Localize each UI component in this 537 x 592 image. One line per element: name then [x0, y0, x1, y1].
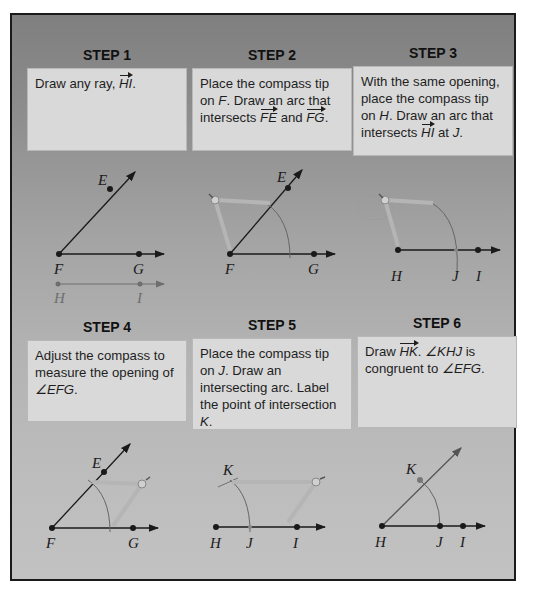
- step-2: STEP 2 Place the compass tip on F. Draw …: [192, 45, 352, 151]
- step-instruction: Draw HK. ∠KHJ is congruent to ∠EFG.: [357, 336, 517, 428]
- ray-fe: [59, 172, 135, 254]
- step-title: STEP 5: [192, 315, 352, 335]
- point-i: [475, 247, 481, 253]
- step-title: STEP 6: [357, 313, 517, 333]
- point-g: [130, 525, 136, 531]
- svg-text:I: I: [292, 535, 299, 551]
- arc: [267, 204, 290, 258]
- point-g: [311, 251, 317, 257]
- ray-notation: FG: [306, 109, 324, 126]
- point-e: [101, 469, 107, 475]
- step-instruction: Draw any ray, HI.: [27, 68, 187, 151]
- point-f: [56, 251, 62, 257]
- svg-text:H: H: [374, 534, 387, 550]
- point-j: [454, 248, 458, 252]
- step-3: STEP 3 With the same opening, place the …: [353, 43, 513, 156]
- figure-step-6: K H J I: [370, 440, 520, 555]
- svg-text:G: G: [308, 261, 319, 277]
- arc: [432, 203, 457, 272]
- step-instruction: Place the compass tip on J. Draw an inte…: [192, 338, 352, 430]
- svg-text:H: H: [390, 268, 403, 284]
- svg-text:H: H: [209, 535, 222, 551]
- svg-text:I: I: [475, 268, 482, 284]
- figure-step-4: E F G: [40, 430, 190, 555]
- svg-text:F: F: [224, 261, 235, 277]
- point-e: [107, 186, 113, 192]
- step-5: STEP 5 Place the compass tip on J. Draw …: [192, 315, 352, 430]
- angle-notation: ∠KHJ: [425, 344, 462, 359]
- ray-notation: FE: [260, 109, 277, 126]
- svg-text:I: I: [459, 534, 466, 550]
- svg-text:F: F: [53, 261, 64, 277]
- step-1: STEP 1 Draw any ray, HI.: [27, 45, 187, 151]
- point-h: [395, 247, 401, 253]
- step-instruction: With the same opening, place the compass…: [353, 66, 513, 156]
- point-h: [379, 523, 385, 529]
- ray-notation: HI: [421, 124, 434, 141]
- step-6: STEP 6 Draw HK. ∠KHJ is congruent to ∠EF…: [357, 313, 517, 428]
- ray-notation: HK: [399, 343, 417, 360]
- svg-text:F: F: [45, 535, 56, 551]
- compass-icon: [92, 477, 150, 526]
- svg-text:J: J: [246, 535, 254, 551]
- angle-notation: ∠EFG: [35, 382, 74, 397]
- point-f: [49, 525, 55, 531]
- svg-text:G: G: [128, 535, 139, 551]
- point-e: [285, 185, 291, 191]
- point-h: [56, 282, 61, 287]
- point-k: [417, 477, 423, 483]
- compass-icon: [209, 194, 270, 250]
- figure-step-2: E F G: [195, 160, 350, 280]
- svg-text:K: K: [405, 461, 417, 477]
- step-title: STEP 1: [27, 45, 187, 65]
- svg-text:E: E: [97, 172, 107, 188]
- point-j: [437, 523, 443, 529]
- ray-hk: [382, 448, 461, 526]
- svg-text:J: J: [436, 534, 444, 550]
- ray-fe: [230, 170, 302, 254]
- point-i: [460, 523, 466, 529]
- svg-text:K: K: [222, 462, 234, 478]
- point-h: [213, 524, 219, 530]
- arc: [420, 480, 440, 526]
- figure-step-5: K H J I: [200, 440, 350, 555]
- arc: [230, 480, 250, 532]
- angle-notation: ∠EFG: [442, 361, 481, 376]
- svg-text:J: J: [452, 268, 460, 284]
- point-g: [136, 251, 142, 257]
- point-j: [248, 525, 252, 529]
- step-4: STEP 4 Adjust the compass to measure the…: [27, 317, 187, 422]
- svg-text:E: E: [276, 169, 286, 185]
- figure-step-3: H J I: [345, 180, 515, 290]
- step-title: STEP 4: [27, 317, 187, 337]
- compass-icon: [232, 477, 325, 522]
- step-title: STEP 2: [192, 45, 352, 65]
- step-instruction: Place the compass tip on F. Draw an arc …: [192, 68, 352, 151]
- svg-text:E: E: [91, 455, 101, 471]
- svg-text:G: G: [133, 261, 144, 277]
- arc: [88, 480, 110, 532]
- svg-text:H: H: [53, 290, 66, 305]
- step-instruction: Adjust the compass to measure the openin…: [27, 340, 187, 422]
- point-i: [294, 524, 300, 530]
- svg-text:I: I: [136, 290, 143, 305]
- compass-icon: [379, 194, 433, 246]
- step-title: STEP 3: [353, 43, 513, 63]
- figure-step-1: E F G H I: [40, 160, 190, 305]
- ray-notation: HI: [119, 75, 132, 92]
- point-i: [138, 282, 143, 287]
- point-f: [227, 251, 233, 257]
